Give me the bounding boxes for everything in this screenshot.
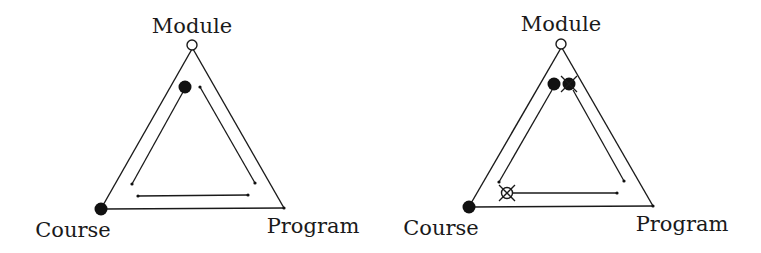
left-triangle-diagram: Module Course Program	[35, 14, 359, 242]
program-vertex-dot-icon	[282, 206, 285, 209]
inner-paths	[497, 90, 625, 195]
right-triangle-diagram: Module Course Program	[403, 12, 728, 240]
diagram-canvas: Module Course Program Module Course Prog…	[0, 0, 761, 253]
outer-triangle	[102, 49, 284, 209]
label-course: Course	[35, 218, 110, 242]
label-program: Program	[636, 212, 729, 236]
label-module: Module	[521, 12, 601, 36]
course-vertex-filled-circle-icon	[95, 203, 108, 216]
module-vertex-hollow-circle-icon	[187, 40, 197, 50]
module-vertex-hollow-circle-icon	[556, 39, 566, 49]
inner-crossed-filled-circle-icon	[561, 76, 577, 92]
program-vertex-dot-icon	[651, 204, 654, 207]
inner-filled-circle-icon	[179, 81, 192, 94]
course-vertex-filled-circle-icon	[463, 201, 476, 214]
outer-triangle	[470, 48, 653, 207]
inner-paths	[130, 85, 256, 197]
inner-filled-circle-icon	[548, 78, 561, 91]
label-program: Program	[267, 214, 360, 238]
label-module: Module	[152, 14, 232, 38]
inner-crossed-hollow-circle-icon	[499, 185, 515, 201]
label-course: Course	[403, 216, 478, 240]
